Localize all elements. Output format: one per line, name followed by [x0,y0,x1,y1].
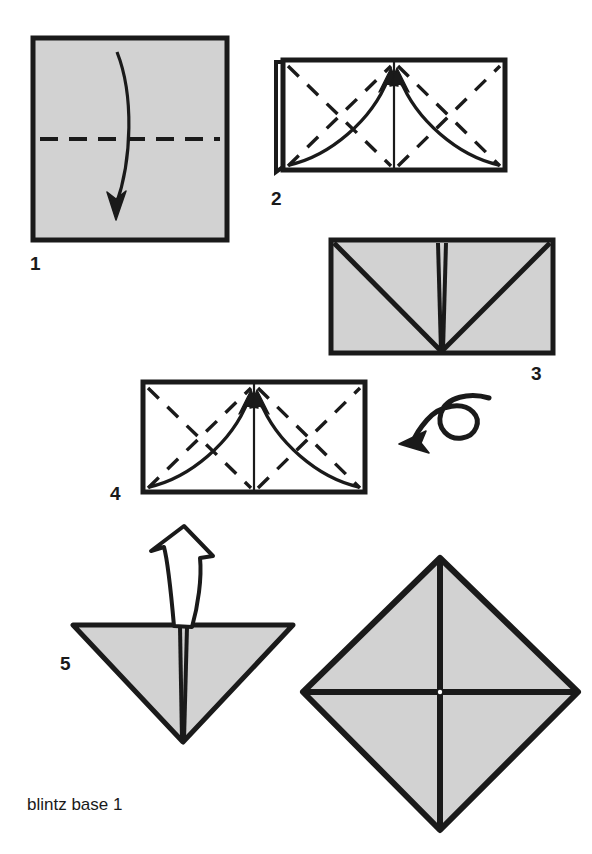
step-2-group: 2 [271,60,505,209]
step-1-group: 1 [30,38,227,274]
step-2-number-label: 2 [271,188,282,209]
origami-diagram-canvas: 1 2 3 [0,0,592,854]
figure-caption: blintz base 1 [27,795,122,814]
step-5-group: 5 [60,526,293,742]
step-3-number-label: 3 [531,363,542,384]
origami-diagram-root: 1 2 3 [0,0,592,854]
blintz-base-result-group [303,558,578,830]
step-3-group: 3 [331,240,553,384]
step-4-group: 4 [110,382,365,504]
step-5-center-edge-left [180,627,182,740]
step-1-number-label: 1 [30,253,41,274]
step-5-number-label: 5 [60,653,71,674]
result-diamond-center-point [438,690,442,694]
step-4-number-label: 4 [110,483,121,504]
step-5-open-hollow-arrow [151,526,213,627]
turn-over-icon [399,396,489,453]
